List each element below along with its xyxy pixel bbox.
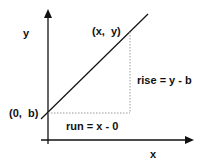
run-label: run = x - 0 (66, 120, 118, 132)
slope-diagram: y x (x, y) (0, b) rise = y - b run = x -… (0, 0, 211, 165)
x-axis-label: x (150, 148, 157, 160)
rise-label: rise = y - b (137, 74, 192, 86)
y-axis-label: y (23, 27, 30, 39)
x-axis-arrow-icon (185, 136, 194, 144)
intercept-label: (0, b) (9, 107, 39, 119)
y-axis-arrow-icon (44, 9, 52, 18)
point-label: (x, y) (92, 25, 121, 37)
